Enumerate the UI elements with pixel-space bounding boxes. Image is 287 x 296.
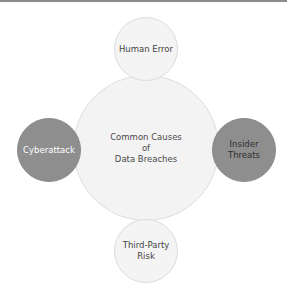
top-border-line	[0, 0, 287, 2]
node-label: Insider Threats	[228, 139, 260, 161]
node-insider-threats: Insider Threats	[212, 118, 276, 182]
node-human-error: Human Error	[114, 17, 178, 81]
center-circle: Common Causes of Data Breaches	[73, 75, 219, 221]
node-third-party-risk: Third-Party Risk	[114, 219, 178, 283]
center-label: Common Causes of Data Breaches	[110, 132, 182, 165]
node-cyberattack: Cyberattack	[17, 118, 81, 182]
node-label: Cyberattack	[23, 145, 75, 156]
node-label: Human Error	[119, 44, 173, 55]
node-label: Third-Party Risk	[123, 240, 170, 262]
